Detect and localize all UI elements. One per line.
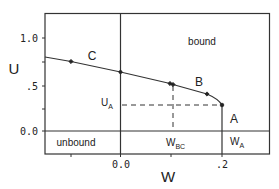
y-tick-label: 0.0 [20,126,38,137]
ua-annotation: UA [101,97,113,110]
x-tick-label: 0.0 [112,159,130,170]
ua-main: UA [101,97,113,110]
point-label-a: A [230,112,238,126]
ua-sub-text: A [108,103,113,110]
wbc-main: WBC [166,137,185,150]
region-label-bound: bound [188,36,216,47]
wa-main: WA [230,136,244,149]
wa-sub-text: A [239,142,244,149]
y-tick-label: .5 [26,81,38,92]
x-axis-label: W [161,168,176,185]
wa-annotation: WA [230,136,244,149]
point-label-c: C [88,49,97,63]
region-label-unbound: unbound [57,137,96,148]
marker-icon [205,92,209,96]
y-axis-label: U [9,60,20,77]
point-label-b: B [195,75,203,89]
phase-diagram-chart: 1.0 .5 0.0 0.0 .2 U W C B A bound unboun… [0,0,279,189]
y-tick-label: 1.0 [20,33,38,44]
marker-icon [69,59,73,63]
x-tick-label: .2 [216,159,228,170]
marker-icon [119,70,122,73]
marker-icon [220,103,224,107]
plot-frame [45,14,270,155]
wbc-annotation: WBC [166,137,185,150]
wbc-sub-text: BC [175,143,185,150]
ua-main-text: U [101,97,108,108]
